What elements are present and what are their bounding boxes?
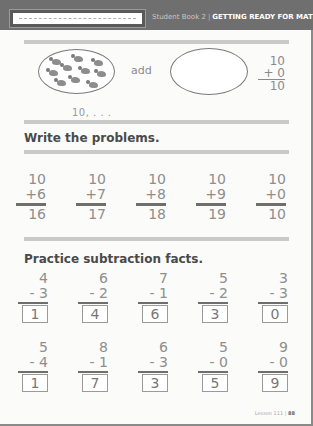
subtraction-problem: 7 - 1 6	[138, 271, 168, 323]
page-footer: Lesson 111 | 88	[255, 410, 295, 416]
subtraction-problem: 5 - 2 3	[198, 271, 228, 323]
problem-answer[interactable]: 18	[130, 207, 166, 222]
subtraction-problem: 8 - 1 7	[78, 340, 108, 392]
footer-separator: |	[285, 410, 287, 416]
problem-top: 10	[130, 172, 166, 187]
book-name: Student Book 2	[152, 13, 206, 21]
subtraction-problem: 4 - 3 1	[18, 271, 48, 323]
bird-icon	[89, 82, 98, 88]
subtrahend: - 0	[258, 355, 288, 370]
problem-answer[interactable]: 19	[190, 207, 226, 222]
subtraction-problem: 6 - 2 4	[78, 271, 108, 323]
vertical-addition: 10 + 0 10	[258, 55, 285, 92]
answer-line	[198, 371, 228, 373]
subtrahend: - 1	[138, 286, 168, 301]
name-field[interactable]	[10, 10, 145, 27]
answer-line	[78, 371, 108, 373]
minuend: 4	[18, 271, 48, 286]
subtraction-problem: 5 - 4 1	[18, 340, 48, 392]
worksheet-page: Student Book 2|GETTING READY FOR MATH ad…	[0, 0, 313, 426]
sum: 10	[258, 79, 285, 92]
answer-box[interactable]: 6	[142, 305, 168, 323]
name-line	[19, 18, 136, 19]
addition-problem: 10 +7 17	[70, 172, 106, 222]
bird-icon	[57, 80, 66, 86]
problem-bottom: +9	[190, 187, 226, 202]
problem-answer[interactable]: 17	[70, 207, 106, 222]
bird-icon	[97, 71, 106, 77]
divider-band	[24, 150, 289, 154]
subtrahend: - 3	[18, 286, 48, 301]
minuend: 9	[258, 340, 288, 355]
answer-box[interactable]: 1	[22, 374, 48, 392]
unit-title: GETTING READY FOR MATH	[212, 13, 313, 21]
answer-box[interactable]: 1	[22, 305, 48, 323]
subtrahend: - 1	[78, 355, 108, 370]
bird-icon	[74, 56, 83, 62]
page-header: Student Book 2|GETTING READY FOR MATH	[0, 0, 313, 30]
header-separator: |	[208, 13, 210, 21]
subtraction-problem: 6 - 3 3	[138, 340, 168, 392]
minuend: 7	[138, 271, 168, 286]
section-title-subtraction: Practice subtraction facts.	[24, 252, 203, 266]
page-number: 88	[288, 410, 295, 416]
add-label: add	[131, 64, 152, 77]
answer-box[interactable]: 4	[82, 305, 108, 323]
answer-line	[138, 371, 168, 373]
book-label: Student Book 2|GETTING READY FOR MATH	[152, 13, 313, 21]
divider-band	[24, 237, 289, 241]
answer-box[interactable]: 7	[82, 374, 108, 392]
answer-box[interactable]: 5	[202, 374, 228, 392]
answer-line	[78, 302, 108, 304]
problem-top: 10	[250, 172, 286, 187]
bird-icon	[71, 77, 80, 83]
problem-top: 10	[10, 172, 46, 187]
problem-top: 10	[190, 172, 226, 187]
section-title-write-problems: Write the problems.	[24, 131, 160, 145]
bird-icon	[81, 68, 90, 74]
answer-box[interactable]: 3	[142, 374, 168, 392]
answer-box[interactable]: 3	[202, 305, 228, 323]
problem-answer[interactable]: 16	[10, 207, 46, 222]
answer-line	[18, 302, 48, 304]
addition-problem: 10 +0 10	[250, 172, 286, 222]
lesson-label: Lesson 111	[255, 410, 283, 416]
answer-line	[18, 371, 48, 373]
subtraction-problem: 5 - 0 5	[198, 340, 228, 392]
problem-bottom: +8	[130, 187, 166, 202]
problem-top: 10	[70, 172, 106, 187]
answer-line	[258, 302, 288, 304]
minuend: 3	[258, 271, 288, 286]
subtrahend: - 4	[18, 355, 48, 370]
answer-box[interactable]: 9	[262, 374, 288, 392]
subtraction-problem: 9 - 0 9	[258, 340, 288, 392]
divider-band	[24, 40, 289, 44]
answer-line	[198, 302, 228, 304]
count-label: 10, . . .	[72, 107, 111, 118]
minuend: 5	[18, 340, 48, 355]
addition-problem: 10 +9 19	[190, 172, 226, 222]
subtrahend: - 0	[198, 355, 228, 370]
minuend: 6	[78, 271, 108, 286]
minuend: 5	[198, 340, 228, 355]
problem-bottom: +6	[10, 187, 46, 202]
addition-problem: 10 +8 18	[130, 172, 166, 222]
answer-line	[258, 371, 288, 373]
subtrahend: - 2	[78, 286, 108, 301]
bird-group-oval	[38, 49, 115, 94]
problem-answer[interactable]: 10	[250, 207, 286, 222]
minuend: 6	[138, 340, 168, 355]
addend-bottom: + 0	[258, 67, 285, 79]
bird-icon	[94, 60, 103, 66]
bird-icon	[63, 65, 72, 71]
minuend: 5	[198, 271, 228, 286]
problem-bottom: +0	[250, 187, 286, 202]
addition-problem: 10 +6 16	[10, 172, 46, 222]
empty-oval	[170, 48, 248, 95]
problem-bottom: +7	[70, 187, 106, 202]
answer-box[interactable]: 0	[262, 305, 288, 323]
subtraction-problem: 3 - 3 0	[258, 271, 288, 323]
minuend: 8	[78, 340, 108, 355]
subtrahend: - 3	[138, 355, 168, 370]
subtrahend: - 3	[258, 286, 288, 301]
